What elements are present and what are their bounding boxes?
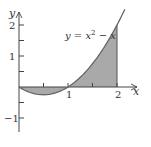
x-axis-label: x: [133, 85, 140, 98]
equation-tail: − x: [96, 30, 117, 41]
y-tick-label-1: 1: [9, 51, 15, 62]
x-tick-label-1: 1: [66, 89, 72, 100]
y-tick-label-2: 2: [9, 20, 15, 31]
function-plot: y x 1 2 2 1 −1 y = x2 − x: [0, 0, 151, 147]
curve-equation-label: y = x2 − x: [64, 29, 116, 41]
x-tick-label-2: 2: [115, 89, 121, 100]
equation-main: y = x: [64, 30, 91, 41]
y-axis-label: y: [8, 7, 16, 20]
y-tick-label-neg1: −1: [4, 113, 19, 124]
